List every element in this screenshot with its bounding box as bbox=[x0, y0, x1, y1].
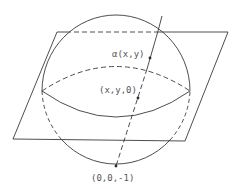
projection-line-outside bbox=[158, 16, 162, 31]
projection-line-upper bbox=[147, 31, 158, 69]
sphere-lower-outline-dashed-right bbox=[170, 91, 190, 140]
plane-point-marker bbox=[137, 97, 140, 100]
alpha-point-marker bbox=[149, 57, 152, 60]
south-pole-label: (0,0,-1) bbox=[91, 173, 134, 183]
south-pole-marker bbox=[115, 165, 118, 168]
plane-point-label: (x,y,0) bbox=[99, 85, 137, 95]
plane-right-edge bbox=[159, 32, 228, 141]
sphere-lower-outline-dashed-left bbox=[42, 91, 62, 140]
projection-line-inside bbox=[116, 69, 147, 166]
alpha-point-label: α(x,y) bbox=[112, 49, 145, 59]
stereographic-diagram: α(x,y) (x,y,0) (0,0,-1) bbox=[0, 0, 238, 189]
sphere-lower-outline bbox=[62, 140, 170, 164]
